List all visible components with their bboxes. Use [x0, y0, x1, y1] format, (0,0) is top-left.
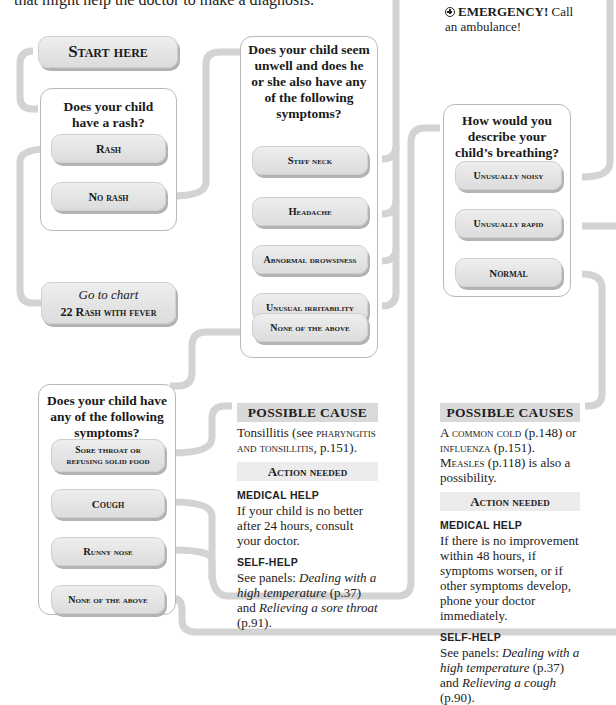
common-cold-link[interactable]: common cold — [452, 425, 521, 440]
medical-help-text: If there is no improvement within 48 hou… — [440, 533, 580, 623]
goto-chart-22-button[interactable]: Go to chart 22 Rash with fever — [41, 282, 176, 324]
self-help-text: See panels: Dealing with a high temperat… — [440, 645, 580, 705]
goto-chart-name: 22 Rash with fever — [61, 306, 157, 318]
emergency-label: EMERGENCY! — [458, 4, 548, 19]
cause-text: (p.148) or — [521, 425, 576, 440]
measles-link[interactable]: Measles — [440, 455, 485, 470]
self-help-end: (p.90). — [440, 690, 475, 705]
unwell-question-text: Does your child seem unwell and does he … — [241, 42, 377, 122]
rash-question-text: Does your child have a rash? — [41, 99, 176, 131]
self-help-label: SELF-HELP — [237, 555, 378, 570]
cold-result-panel: POSSIBLE CAUSES A common cold (p.148) or… — [440, 403, 580, 705]
option-sore-throat[interactable]: Sore throat or refusing solid food — [51, 439, 165, 472]
medical-help-label: MEDICAL HELP — [237, 488, 378, 503]
emergency-cross-icon — [445, 7, 455, 17]
option-abnormal-drowsiness[interactable]: Abnormal drowsiness — [252, 245, 368, 274]
option-none-of-the-above-unwell[interactable]: None of the above — [252, 313, 368, 342]
cause-text: Tonsillitis (see — [237, 425, 316, 440]
breathing-question-text: How would you describe your child’s brea… — [444, 113, 570, 161]
action-needed-heading: Action needed — [237, 462, 378, 481]
cough-link[interactable]: Relieving a cough — [462, 675, 556, 690]
cause-text: A — [440, 425, 452, 440]
option-headache[interactable]: Headache — [252, 197, 368, 226]
option-cough[interactable]: Cough — [51, 489, 165, 518]
intro-text: that might help the doctor to make a dia… — [14, 0, 314, 9]
option-no-rash[interactable]: No rash — [51, 182, 166, 211]
self-help-text: See panels: Dealing with a high temperat… — [237, 570, 378, 630]
symptoms-question-text: Does your child have any of the followin… — [39, 393, 175, 441]
emergency-note: EMERGENCY! Call an ambulance! — [445, 4, 575, 34]
self-help-prefix: See panels: — [440, 645, 502, 660]
option-rash[interactable]: Rash — [51, 134, 166, 163]
goto-chart-prefix: Go to chart — [79, 289, 139, 301]
cause-text-end: , p.151). — [314, 440, 357, 455]
possible-causes-heading: POSSIBLE CAUSES — [440, 403, 580, 422]
influenza-link[interactable]: influenza — [440, 440, 491, 455]
option-runny-nose[interactable]: Runny nose — [51, 537, 165, 566]
medical-help-label: MEDICAL HELP — [440, 518, 580, 533]
self-help-label: SELF-HELP — [440, 630, 580, 645]
option-unusually-noisy[interactable]: Unusually noisy — [455, 161, 562, 190]
possible-cause-text: Tonsillitis (see pharyngitis and tonsill… — [237, 425, 378, 455]
possible-cause-heading: POSSIBLE CAUSE — [237, 403, 378, 422]
option-unusually-rapid[interactable]: Unusually rapid — [455, 209, 562, 238]
tonsillitis-result-panel: POSSIBLE CAUSE Tonsillitis (see pharyngi… — [237, 403, 378, 630]
action-needed-heading: Action needed — [440, 492, 580, 511]
start-here-button[interactable]: Start here — [38, 36, 178, 68]
option-stiff-neck[interactable]: Stiff neck — [252, 146, 368, 175]
sore-throat-link[interactable]: Relieving a sore throat — [259, 600, 378, 615]
option-normal[interactable]: Normal — [455, 258, 562, 287]
medical-help-text: If your child is no better after 24 hour… — [237, 503, 378, 548]
self-help-end: (p.91). — [237, 615, 272, 630]
option-none-of-the-above-symptoms[interactable]: None of the above — [51, 585, 165, 614]
possible-causes-text: A common cold (p.148) or influenza (p.15… — [440, 425, 580, 485]
self-help-prefix: See panels: — [237, 570, 299, 585]
cause-text: (p.151). — [491, 440, 535, 455]
